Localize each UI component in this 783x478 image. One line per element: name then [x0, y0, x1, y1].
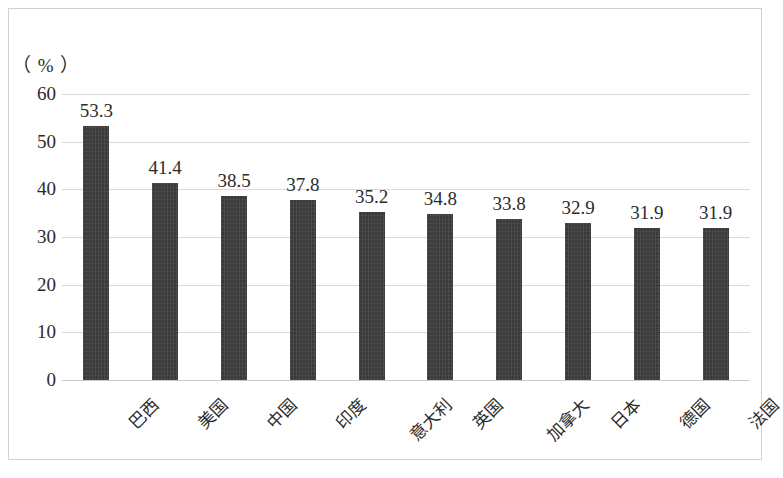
gridline-0 — [62, 380, 750, 381]
category-label-1: 美国 — [191, 392, 233, 434]
y-axis-tick-labels: 0102030405060 — [0, 94, 56, 380]
y-tick-label-60: 60 — [10, 83, 56, 105]
bar-4[interactable] — [359, 212, 385, 380]
x-axis-category-labels: 巴西美国中国印度意大利英国加拿大日本德国法国 — [62, 384, 750, 474]
bar-value-label-6: 33.8 — [479, 193, 539, 215]
bar-value-label-3: 37.8 — [273, 174, 333, 196]
bar-value-label-1: 41.4 — [135, 157, 195, 179]
gridline-60 — [62, 94, 750, 95]
category-label-4: 意大利 — [403, 392, 457, 446]
category-label-3: 印度 — [329, 392, 371, 434]
y-tick-label-20: 20 — [10, 274, 56, 296]
bar-value-label-4: 35.2 — [342, 186, 402, 208]
y-tick-label-10: 10 — [10, 321, 56, 343]
bar-value-label-7: 32.9 — [548, 197, 608, 219]
bar-9[interactable] — [703, 228, 729, 380]
bar-3[interactable] — [290, 200, 316, 380]
y-tick-label-40: 40 — [10, 178, 56, 200]
bar-2[interactable] — [221, 196, 247, 380]
bar-0[interactable] — [83, 126, 109, 380]
y-axis-unit-label: （ % ） — [12, 50, 80, 77]
bar-8[interactable] — [634, 228, 660, 380]
y-tick-label-50: 50 — [10, 131, 56, 153]
category-label-7: 日本 — [604, 392, 646, 434]
category-label-5: 英国 — [466, 392, 508, 434]
gridline-50 — [62, 142, 750, 143]
bar-6[interactable] — [496, 219, 522, 380]
bar-5[interactable] — [427, 214, 453, 380]
bar-value-label-9: 31.9 — [686, 202, 746, 224]
bar-value-label-8: 31.9 — [617, 202, 677, 224]
bar-value-label-2: 38.5 — [204, 170, 264, 192]
bar-value-label-5: 34.8 — [410, 188, 470, 210]
y-tick-label-0: 0 — [10, 369, 56, 391]
plot-area — [62, 94, 750, 380]
bar-1[interactable] — [152, 183, 178, 380]
y-tick-label-30: 30 — [10, 226, 56, 248]
category-label-9: 法国 — [742, 392, 783, 434]
bar-value-label-0: 53.3 — [66, 100, 126, 122]
bar-7[interactable] — [565, 223, 591, 380]
category-label-0: 巴西 — [122, 392, 164, 434]
category-label-8: 德国 — [673, 392, 715, 434]
category-label-6: 加拿大 — [540, 392, 594, 446]
category-label-2: 中国 — [260, 392, 302, 434]
